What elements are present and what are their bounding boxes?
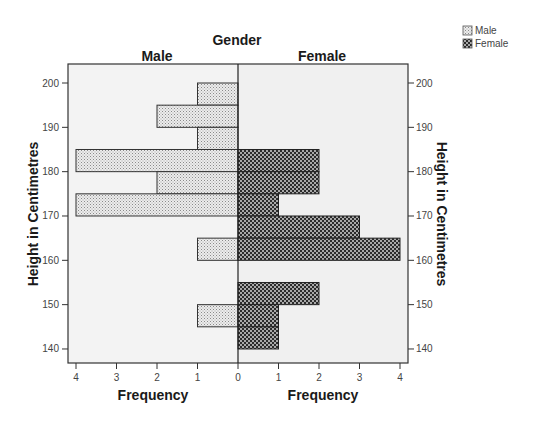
bar-female	[238, 172, 319, 194]
y-tick-label: 180	[42, 166, 59, 177]
bar-male	[198, 127, 239, 149]
bar-female	[238, 327, 279, 349]
legend: Male Female	[463, 25, 509, 49]
y-tick-label: 160	[416, 255, 433, 266]
y-tick-label: 170	[416, 210, 433, 221]
y-tick-label: 190	[42, 122, 59, 133]
bar-male	[198, 238, 239, 260]
panel-label-female: Female	[298, 48, 346, 64]
y-tick-label: 170	[42, 210, 59, 221]
y-axis-right: 140150160170180190200	[408, 78, 433, 355]
y-tick-label: 160	[42, 255, 59, 266]
panel-label-male: Male	[141, 48, 172, 64]
y-axis-left: 140150160170180190200	[42, 78, 68, 355]
legend-swatch-male	[463, 26, 472, 35]
bar-female	[238, 149, 319, 171]
bar-male	[198, 305, 239, 327]
x-tick-label: 1	[276, 372, 282, 383]
x-tick-label: 4	[397, 372, 403, 383]
bar-male	[157, 105, 238, 127]
x-axis-label-female: Frequency	[288, 387, 359, 403]
x-tick-label: 0	[235, 372, 241, 383]
bar-female	[238, 238, 400, 260]
bar-female	[238, 194, 279, 216]
y-tick-label: 180	[416, 166, 433, 177]
population-pyramid-chart: Gender Male Female 140150160170180190200…	[0, 0, 540, 423]
legend-label-male: Male	[475, 25, 497, 36]
chart-title: Gender	[212, 32, 262, 48]
y-tick-label: 140	[416, 343, 433, 354]
x-axis: 011223344	[73, 363, 403, 383]
y-tick-label: 150	[42, 299, 59, 310]
bar-male	[76, 149, 238, 171]
x-tick-label: 2	[316, 372, 322, 383]
bar-female	[238, 282, 319, 304]
x-tick-label: 3	[357, 372, 363, 383]
y-axis-label-right: Height in Centimetres	[434, 142, 450, 287]
bar-female	[238, 216, 360, 238]
y-tick-label: 190	[416, 122, 433, 133]
x-tick-label: 1	[195, 372, 201, 383]
x-tick-label: 4	[73, 372, 79, 383]
bar-male	[76, 194, 238, 216]
x-axis-label-male: Frequency	[118, 387, 189, 403]
bar-male	[157, 172, 238, 194]
x-tick-label: 2	[154, 372, 160, 383]
bar-female	[238, 305, 279, 327]
y-tick-label: 200	[42, 78, 59, 89]
y-tick-label: 150	[416, 299, 433, 310]
y-axis-label-left: Height in Centimetres	[25, 141, 41, 286]
y-tick-label: 140	[42, 343, 59, 354]
legend-swatch-female	[463, 39, 472, 48]
x-tick-label: 3	[114, 372, 120, 383]
bar-male	[198, 83, 239, 105]
y-tick-label: 200	[416, 78, 433, 89]
legend-label-female: Female	[475, 38, 509, 49]
